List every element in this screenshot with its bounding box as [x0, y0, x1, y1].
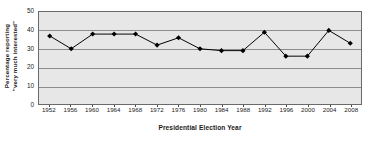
y-tick-label: 10	[27, 83, 34, 89]
x-tick-label: 1960	[85, 107, 99, 113]
data-point-marker	[112, 32, 117, 37]
y-axis-title-line-2: "very much interested"	[11, 21, 19, 91]
data-point-marker	[154, 43, 159, 48]
x-tick-label: 1992	[258, 107, 272, 113]
x-tick-label: 1984	[215, 107, 229, 113]
data-point-marker	[348, 41, 353, 46]
chart-figure: Percentage reporting "very much interest…	[0, 0, 372, 141]
plot-area	[38, 11, 362, 105]
x-tick-label: 1956	[64, 107, 78, 113]
data-point-marker	[133, 32, 138, 37]
x-axis-title: Presidential Election Year	[38, 124, 362, 131]
x-tick-label: 2008	[344, 107, 358, 113]
x-tick-label: 2000	[301, 107, 315, 113]
x-tick-label: 1972	[150, 107, 164, 113]
data-point-marker	[176, 35, 181, 40]
x-tick-label: 1964	[107, 107, 121, 113]
y-tick-label: 0	[30, 102, 34, 108]
x-tick-label: 1996	[280, 107, 294, 113]
y-axis-title: Percentage reporting "very much interest…	[0, 0, 22, 112]
x-axis-tick-labels: 1952195619601964196819721976198019841988…	[38, 107, 362, 119]
y-tick-label: 30	[27, 45, 34, 51]
x-tick-label: 2004	[323, 107, 337, 113]
data-series	[39, 12, 361, 104]
data-point-marker	[197, 46, 202, 51]
y-tick-label: 50	[27, 8, 34, 14]
x-tick-label: 1968	[128, 107, 142, 113]
y-tick-label: 20	[27, 64, 34, 70]
data-point-marker	[47, 33, 52, 38]
data-point-marker	[219, 48, 224, 53]
y-tick-label: 40	[27, 27, 34, 33]
x-tick-label: 1988	[236, 107, 250, 113]
x-tick-label: 1976	[172, 107, 186, 113]
x-tick-label: 1980	[193, 107, 207, 113]
y-axis-tick-labels: 01020304050	[20, 0, 36, 112]
y-axis-title-line-1: Percentage reporting	[3, 21, 11, 91]
x-tick-label: 1952	[42, 107, 56, 113]
